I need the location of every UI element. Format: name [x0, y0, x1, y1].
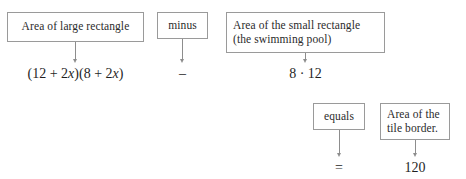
arrow-large-rectangle	[75, 42, 76, 60]
box-equals-label: equals	[320, 110, 358, 124]
arrow-tile-border	[415, 140, 416, 154]
box-tile-border-label: Area of the tile border.	[387, 108, 443, 135]
expression-large-rectangle-text: (12 + 2x)(8 + 2x)	[28, 66, 124, 81]
arrowhead-large-rectangle	[73, 59, 77, 63]
box-large-rectangle-label: Area of large rectangle	[14, 20, 137, 34]
box-minus: minus	[157, 12, 208, 39]
box-minus-label: minus	[164, 19, 201, 33]
value-tile-border: 120	[380, 160, 450, 176]
arrowhead-equals	[337, 153, 341, 157]
arrow-equals	[339, 130, 340, 154]
arrowhead-tile-border	[413, 153, 417, 157]
operator-equals: =	[313, 160, 365, 176]
expression-large-rectangle: (12 + 2x)(8 + 2x)	[0, 66, 151, 82]
box-small-rectangle: Area of the small rectangle (the swimmin…	[226, 12, 385, 53]
box-small-rectangle-label: Area of the small rectangle (the swimmin…	[233, 19, 378, 46]
arrowhead-minus	[180, 59, 184, 63]
diagram-canvas: Area of large rectangle (12 + 2x)(8 + 2x…	[0, 0, 466, 179]
box-large-rectangle: Area of large rectangle	[7, 12, 144, 42]
operator-minus: –	[157, 66, 208, 82]
box-equals: equals	[313, 103, 365, 130]
expression-small-rectangle: 8 · 12	[255, 66, 356, 82]
arrow-minus	[182, 39, 183, 60]
arrowhead-small-rectangle	[303, 59, 307, 63]
box-tile-border: Area of the tile border.	[380, 103, 450, 140]
